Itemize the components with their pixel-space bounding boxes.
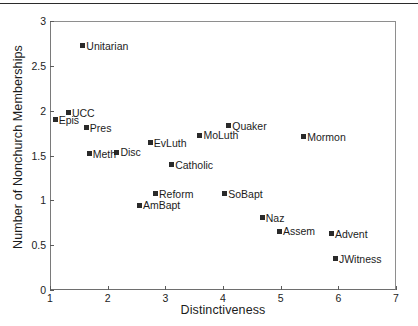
data-point-meth: Meth [87,145,116,161]
y-tick-mark [50,200,54,201]
point-label: Pres [90,123,112,134]
y-tick-label-0-5: 0.5 [0,239,46,251]
point-label: Assem [283,226,315,237]
x-tick-mark [50,286,51,290]
point-label: Unitarian [86,41,128,52]
y-tick-label-2: 2 [0,105,46,117]
point-marker-icon [301,134,306,139]
data-point-assem: Assem [277,222,315,238]
point-marker-icon [153,191,158,196]
point-label: EvLuth [154,138,187,149]
data-point-unitarian: Unitarian [80,37,128,53]
x-tick-mark [108,286,109,290]
x-tick-label-3: 3 [153,292,177,304]
x-tick-label-1: 1 [38,292,62,304]
point-label: SoBapt [228,189,262,200]
y-tick-mark [50,66,54,67]
point-marker-icon [333,256,338,261]
point-marker-icon [226,123,231,128]
y-tick-label-1: 1 [0,194,46,206]
point-label: Quaker [232,121,266,132]
point-marker-icon [137,203,142,208]
point-marker-icon [260,215,265,220]
data-point-evluth: EvLuth [148,134,187,150]
point-marker-icon [87,151,92,156]
y-tick-mark [50,245,54,246]
data-point-mormon: Mormon [301,128,346,144]
scatter-plot-figure: Number of Nonchurch Memberships Distinct… [0,0,418,326]
x-tick-mark [338,286,339,290]
point-marker-icon [148,140,153,145]
y-tick-label-2-5: 2.5 [0,60,46,72]
x-tick-label-6: 6 [326,292,350,304]
y-tick-label-1-5: 1.5 [0,150,46,162]
y-tick-mark [50,290,54,291]
x-tick-mark [396,286,397,290]
x-tick-mark [223,286,224,290]
data-point-quaker: Quaker [226,117,266,133]
data-point-sobapt: SoBapt [222,185,262,201]
point-marker-icon [197,133,202,138]
point-label: Disc [120,147,140,158]
data-point-disc: Disc [114,143,140,159]
point-marker-icon [84,125,89,130]
y-tick-label-3: 3 [0,15,46,27]
point-label: Advent [335,229,368,240]
point-marker-icon [277,229,282,234]
data-point-jwitness: JWitness [333,250,382,266]
point-marker-icon [329,231,334,236]
point-marker-icon [53,117,58,122]
point-label: JWitness [339,254,382,265]
data-point-pres: Pres [84,119,112,135]
point-marker-icon [222,191,227,196]
point-marker-icon [169,162,174,167]
data-point-advent: Advent [329,225,368,241]
point-label: Catholic [175,160,213,171]
point-label: AmBapt [143,200,180,211]
x-tick-mark [165,286,166,290]
x-tick-label-2: 2 [96,292,120,304]
x-tick-label-7: 7 [384,292,408,304]
point-marker-icon [80,43,85,48]
x-tick-label-5: 5 [269,292,293,304]
point-label: Meth [93,149,116,160]
data-point-epis: Epis [53,111,79,127]
x-tick-label-4: 4 [211,292,235,304]
x-tick-mark [281,286,282,290]
point-label: Epis [59,115,79,126]
x-axis-title: Distinctiveness [50,303,396,317]
data-point-ambapt: AmBapt [137,196,180,212]
y-tick-mark [50,156,54,157]
y-tick-mark [50,21,54,22]
point-label: Mormon [307,132,346,143]
data-point-catholic: Catholic [169,156,213,172]
